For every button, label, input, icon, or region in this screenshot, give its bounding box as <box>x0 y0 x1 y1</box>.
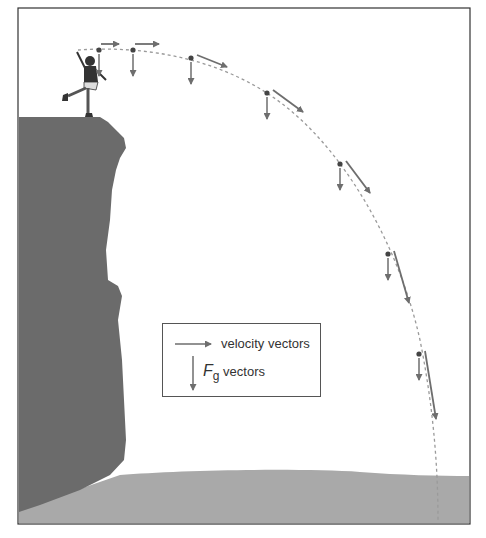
position-dot <box>337 161 342 166</box>
legend-box: velocity vectors Fg vectors <box>162 323 321 397</box>
projectile-diagram <box>0 0 486 538</box>
fg-legend-label: Fg vectors <box>203 362 265 383</box>
position-dot <box>96 47 101 52</box>
position-dot <box>188 55 193 60</box>
velocity-legend-label: velocity vectors <box>221 336 310 351</box>
cliff <box>19 117 126 512</box>
position-dot <box>416 351 421 356</box>
position-dot <box>264 90 269 95</box>
position-dot <box>130 47 135 52</box>
position-dot <box>385 251 390 256</box>
